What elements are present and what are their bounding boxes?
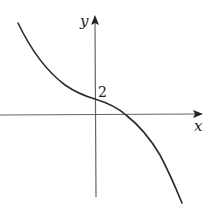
y-axis xyxy=(95,22,96,197)
y-axis-label: y xyxy=(79,12,89,30)
y-intercept-label: 2 xyxy=(98,84,107,100)
x-axis-label: x xyxy=(194,117,203,135)
x-axis xyxy=(0,114,196,115)
function-curve xyxy=(18,23,182,203)
function-graph: y x 2 xyxy=(0,0,221,206)
